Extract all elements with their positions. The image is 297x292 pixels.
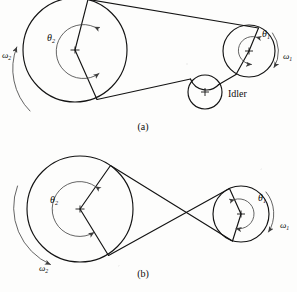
panel-b-belt-cross-span-2 bbox=[109, 189, 230, 256]
panel-b-omega2-arc bbox=[14, 186, 51, 265]
panel-b-theta2-arc bbox=[52, 182, 95, 237]
figure-root: θ2 θ1 ω2 ω1 Idler (a) bbox=[0, 0, 297, 292]
panel-b-omega1-arc bbox=[266, 192, 274, 232]
panel-a-theta2-label: θ2 bbox=[47, 32, 55, 44]
panel-b-large-pulley-wrap-radii bbox=[80, 166, 111, 256]
panel-b-group: θ2 θ1 ω2 ω1 (b) bbox=[14, 156, 290, 280]
panel-b-small-pulley-wrap-radii bbox=[230, 189, 242, 242]
panel-a-idler-label: Idler bbox=[228, 88, 248, 99]
panel-a-omega2-arc bbox=[13, 47, 30, 111]
panel-a-belt-lower-span-left bbox=[97, 79, 191, 100]
panel-b-theta2-label: θ2 bbox=[50, 194, 58, 206]
panel-a-belt-lower-span-right bbox=[219, 75, 236, 85]
panel-a-belt-upper-span bbox=[88, 0, 259, 28]
panel-a-omega1-label: ω1 bbox=[283, 51, 292, 62]
panel-a-theta2-arc bbox=[56, 25, 99, 79]
panel-b-caption: (b) bbox=[137, 268, 149, 280]
panel-b-omega1-label: ω1 bbox=[280, 220, 289, 231]
belt-drive-figure: θ2 θ1 ω2 ω1 Idler (a) bbox=[0, 0, 297, 292]
panel-a-group: θ2 θ1 ω2 ω1 Idler (a) bbox=[2, 0, 292, 133]
panel-a-caption: (a) bbox=[137, 121, 148, 133]
panel-b-theta1-label: θ1 bbox=[258, 192, 266, 204]
panel-a-theta1-label: θ1 bbox=[262, 28, 270, 40]
panel-a-omega2-label: ω2 bbox=[2, 50, 11, 61]
panel-b-omega2-label: ω2 bbox=[39, 263, 48, 274]
